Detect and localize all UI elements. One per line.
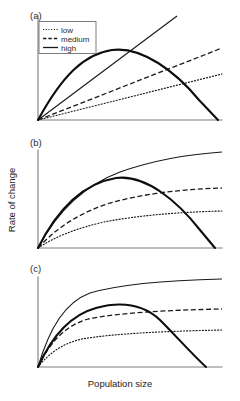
panel-b: (b) <box>30 137 222 248</box>
panel-b-label: (b) <box>30 137 42 148</box>
figure-root: (a) low medium high (b) <box>0 0 240 401</box>
panel-c-label: (c) <box>30 263 41 274</box>
panel-a-label: (a) <box>30 10 42 21</box>
panel-a-curve-low <box>38 74 222 120</box>
panel-c: (c) <box>30 263 222 367</box>
legend-label-high: high <box>61 44 76 53</box>
legend-label-low: low <box>61 26 73 35</box>
panel-c-curve-high <box>38 279 222 367</box>
panel-c-axes <box>38 277 222 367</box>
panel-b-curve-low <box>38 211 222 248</box>
panel-c-curve-medium <box>38 309 222 367</box>
y-axis-title: Rate of change <box>6 168 17 232</box>
panel-c-curve-low <box>38 330 222 367</box>
panel-a: (a) low medium high <box>30 10 222 120</box>
legend-label-medium: medium <box>61 35 90 44</box>
panel-c-curve-parabola <box>38 305 206 367</box>
panel-a-curve-medium <box>38 48 222 120</box>
legend: low medium high <box>39 22 96 54</box>
x-axis-title: Population size <box>88 378 152 389</box>
